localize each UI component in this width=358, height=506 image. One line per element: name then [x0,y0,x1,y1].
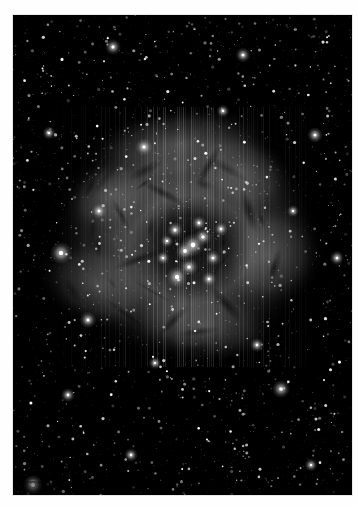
starfield-canvas [13,15,352,495]
page-canvas: · · · · · · [0,0,358,506]
rosette-nebula-photograph [13,15,352,495]
margin-scan-text: · · · · · · [1,398,11,502]
